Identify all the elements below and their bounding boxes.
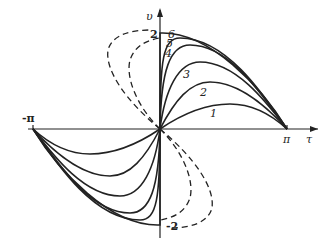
curve-3 <box>160 62 287 129</box>
curves-lower <box>33 129 160 225</box>
curve-label-6: 6 <box>168 28 175 41</box>
dashed-outer <box>108 30 160 129</box>
y-axis-label: υ <box>146 10 153 23</box>
plot-canvas: -π π τ υ 2 -2 1 2 3 4 5 6 <box>0 0 332 245</box>
y-axis-arrow-icon <box>157 8 163 17</box>
curve-1-neg <box>33 129 160 154</box>
neg-pi-label: -π <box>22 112 35 125</box>
x-axis-label: τ <box>306 133 313 146</box>
curve-label-2: 2 <box>199 86 207 99</box>
x-axis-arrow-icon <box>310 126 318 132</box>
y-tick-2: 2 <box>150 28 158 41</box>
curve-label-1: 1 <box>210 107 217 120</box>
pi-label: π <box>282 133 291 146</box>
dashed-outer-neg <box>160 129 212 228</box>
curve-3-neg <box>33 129 160 196</box>
curve-label-3: 3 <box>183 68 190 81</box>
curves-upper <box>160 33 287 129</box>
curve-1 <box>160 104 287 129</box>
y-tick-neg-2: -2 <box>166 220 178 233</box>
